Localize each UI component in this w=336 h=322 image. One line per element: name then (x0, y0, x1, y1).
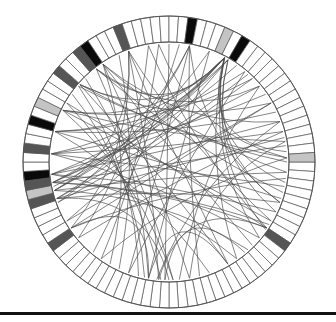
ring-segment (23, 162, 49, 172)
ring-segment (289, 152, 315, 162)
ring-segment (159, 16, 169, 42)
ring-segment (169, 282, 179, 308)
chord-links (51, 44, 287, 280)
chord-link (53, 183, 269, 225)
chord-link (96, 58, 224, 95)
chord-diagram (0, 0, 336, 322)
horizontal-rule (0, 312, 336, 315)
